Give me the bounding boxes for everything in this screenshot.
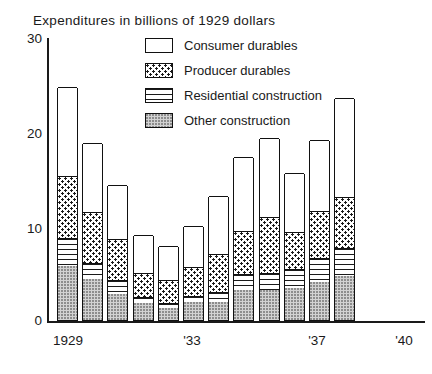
bar-1929-segment-residential-construction [58,238,77,266]
bar-1933-segment-consumer-durables [159,246,178,280]
plot-area [47,0,425,374]
bar-1940-segment-residential-construction [335,248,354,277]
bar-1936-segment-other-construction [234,290,253,320]
bar-1938-segment-producer-durables [285,232,304,269]
bar-1932-segment-residential-construction [134,297,153,303]
bar-1931 [107,186,128,321]
bar-1931-segment-residential-construction [108,280,127,294]
bar-1939 [309,141,330,321]
bar-1932-segment-consumer-durables [134,235,153,273]
bar-1932-segment-producer-durables [134,273,153,297]
bar-1929-segment-producer-durables [58,176,77,239]
bar-1929-segment-other-construction [58,266,77,320]
bar-1930 [82,144,103,321]
y-axis-tick-labels: 30 20 10 0 [0,0,42,374]
bar-1929 [57,88,78,321]
bar-1933-segment-residential-construction [159,303,178,308]
bar-1940-segment-producer-durables [335,197,354,248]
bar-chart: Expenditures in billions of 1929 dollars… [0,0,432,374]
bar-1938-segment-other-construction [285,288,304,320]
bar-1937-segment-consumer-durables [260,138,279,218]
bar-1934-segment-producer-durables [184,267,203,296]
bar-1934-segment-residential-construction [184,296,203,302]
bar-1934-segment-consumer-durables [184,226,203,267]
bar-1938 [284,174,305,321]
bar-1940-segment-other-construction [335,276,354,320]
bar-1930-segment-producer-durables [83,212,102,263]
bar-1940-segment-consumer-durables [335,98,354,197]
bar-1939-segment-residential-construction [310,258,329,282]
bar-1936 [233,158,254,321]
bar-1936-segment-residential-construction [234,274,253,289]
bar-1929-segment-consumer-durables [58,87,77,175]
bar-1930-segment-residential-construction [83,263,102,279]
bar-1938-segment-residential-construction [285,269,304,288]
bar-1935-segment-residential-construction [209,292,228,302]
bar-1931-segment-consumer-durables [108,185,127,239]
y-tick-20: 20 [27,126,42,141]
bar-1937-segment-residential-construction [260,273,279,289]
bar-1937-segment-other-construction [260,290,279,320]
bar-1936-segment-producer-durables [234,231,253,275]
bar-1932-segment-other-construction [134,303,153,320]
bar-1934-segment-other-construction [184,302,203,320]
bar-1938-segment-consumer-durables [285,173,304,232]
y-tick-10: 10 [27,221,42,236]
bar-1930-segment-consumer-durables [83,143,102,211]
bar-1936-segment-consumer-durables [234,157,253,231]
y-tick-30: 30 [27,31,42,46]
bar-1937-segment-producer-durables [260,217,279,273]
y-tick-0: 0 [34,313,42,328]
bar-1937 [259,139,280,321]
bar-1933 [158,247,179,321]
bar-1934 [183,227,204,321]
bar-1932 [133,236,154,321]
bar-1939-segment-other-construction [310,282,329,320]
bar-1931-segment-producer-durables [108,239,127,280]
bar-1935-segment-other-construction [209,302,228,320]
bar-1939-segment-producer-durables [310,211,329,259]
bar-1930-segment-other-construction [83,279,102,320]
bar-1935 [208,197,229,321]
bar-1940 [334,99,355,321]
bar-1933-segment-other-construction [159,308,178,320]
bar-1935-segment-consumer-durables [209,196,228,255]
bar-1933-segment-producer-durables [159,280,178,303]
bar-1935-segment-producer-durables [209,254,228,292]
bar-1931-segment-other-construction [108,294,127,320]
bar-1939-segment-consumer-durables [310,140,329,210]
